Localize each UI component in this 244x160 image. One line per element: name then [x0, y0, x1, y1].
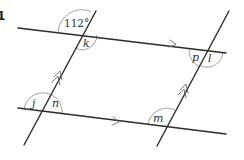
left-transversal: [24, 11, 96, 145]
angle-label-n: n: [52, 97, 59, 110]
bottom-parallel-line: [18, 108, 226, 134]
angle-label-l: l: [208, 52, 212, 65]
angle-label-p: p: [192, 51, 199, 64]
parallel-markers: [52, 40, 188, 125]
parallel-lines-angle-diagram: 1 112° k p l j n m: [0, 0, 244, 160]
angle-label-k: k: [83, 37, 90, 50]
right-transversal: [157, 11, 229, 146]
top-parallel-line: [18, 28, 226, 53]
arc-l: [201, 52, 223, 67]
angle-label-112: 112°: [64, 17, 89, 29]
angle-label-m: m: [153, 112, 163, 125]
angle-label-j: j: [29, 97, 36, 110]
question-number: 1: [0, 9, 5, 23]
lines: [18, 11, 229, 146]
arrow-bottom-line: [112, 117, 119, 125]
